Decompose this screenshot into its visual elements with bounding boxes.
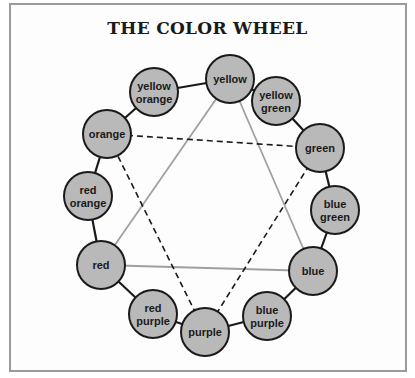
color-node-blue-purple: bluepurple: [243, 292, 291, 340]
color-label: green: [261, 102, 291, 114]
color-node-yellow: yellow: [206, 55, 254, 103]
color-node-yellow-orange: yelloworange: [130, 68, 178, 116]
color-label: blue: [256, 304, 279, 316]
color-label: orange: [136, 93, 173, 105]
color-label: purple: [250, 317, 284, 329]
color-label: yellow: [259, 89, 293, 101]
secondary-triangle-edge: [107, 134, 320, 148]
color-label: purple: [188, 326, 222, 338]
color-label: green: [320, 211, 350, 223]
color-node-yellow-green: yellowgreen: [252, 77, 300, 125]
color-node-green: green: [296, 124, 344, 172]
color-label: yellow: [137, 80, 171, 92]
color-label: blue: [302, 265, 325, 277]
color-label: red: [92, 259, 109, 271]
color-label: yellow: [213, 73, 247, 85]
color-label: orange: [89, 128, 126, 140]
primary-triangle-edge: [101, 265, 313, 271]
color-label: red: [144, 302, 161, 314]
color-label: purple: [136, 315, 170, 327]
color-label: orange: [70, 197, 107, 209]
color-node-red: red: [77, 241, 125, 289]
color-node-purple: purple: [181, 308, 229, 356]
color-label: green: [305, 142, 335, 154]
color-node-red-orange: redorange: [64, 172, 112, 220]
color-label: blue: [324, 198, 347, 210]
color-node-red-purple: redpurple: [129, 290, 177, 338]
color-node-orange: orange: [83, 110, 131, 158]
color-label: red: [79, 184, 96, 196]
color-node-blue: blue: [289, 247, 337, 295]
color-wheel: yellowyellowgreengreenbluegreenbluebluep…: [0, 0, 415, 378]
color-node-blue-green: bluegreen: [311, 186, 359, 234]
